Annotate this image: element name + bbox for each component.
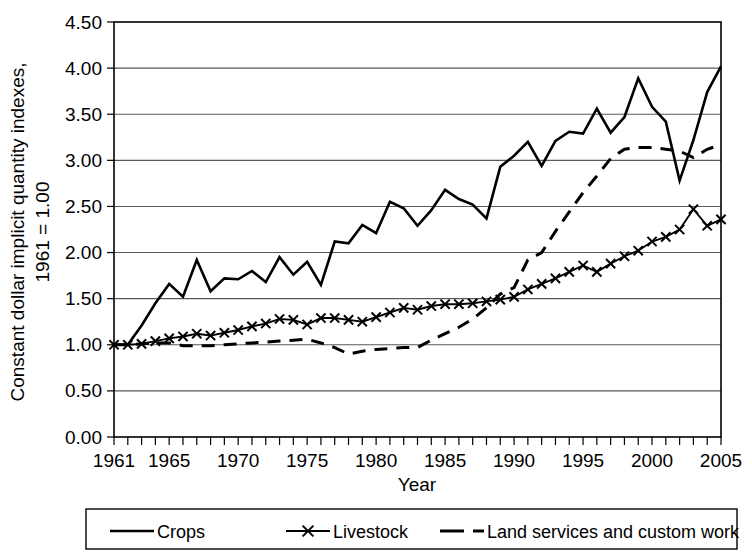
x-tick-label: 1970 — [217, 450, 259, 471]
plot-area-border — [114, 22, 721, 437]
data-point-marker — [551, 274, 560, 283]
y-axis-title-line2: 1961 = 1.00 — [32, 182, 53, 283]
y-tick-label: 2.50 — [65, 196, 102, 217]
x-tick-label: 1995 — [562, 450, 604, 471]
y-tick-label: 3.00 — [65, 150, 102, 171]
legend-label: Crops — [157, 522, 205, 542]
data-point-marker — [385, 308, 394, 317]
x-tick-label: 1980 — [355, 450, 397, 471]
data-point-marker — [537, 279, 546, 288]
x-tick-label: 1990 — [493, 450, 535, 471]
y-tick-label: 1.00 — [65, 334, 102, 355]
y-tick-label: 4.00 — [65, 58, 102, 79]
data-point-marker — [592, 267, 601, 276]
chart-legend: CropsLivestockLand services and custom w… — [86, 509, 740, 549]
series-layer — [109, 66, 725, 354]
x-axis: 1961196519701975198019851990199520002005 — [93, 437, 742, 471]
y-axis: 0.000.501.001.502.002.503.003.504.004.50 — [65, 12, 721, 448]
y-tick-label: 2.00 — [65, 242, 102, 263]
series-land-services-and-custom-work — [114, 145, 721, 354]
line-chart: Constant dollar implicit quantity indexe… — [0, 0, 752, 552]
series-crops — [114, 66, 721, 345]
legend-label: Land services and custom work — [487, 522, 740, 542]
x-tick-label: 2000 — [631, 450, 673, 471]
data-point-marker — [372, 313, 381, 322]
data-point-marker — [523, 285, 532, 294]
legend-label: Livestock — [333, 522, 409, 542]
x-tick-label: 1965 — [148, 450, 190, 471]
data-point-marker — [606, 259, 615, 268]
x-tick-label: 2005 — [700, 450, 742, 471]
data-point-marker — [647, 237, 656, 246]
y-tick-label: 1.50 — [65, 288, 102, 309]
x-tick-label: 1961 — [93, 450, 135, 471]
y-tick-label: 3.50 — [65, 104, 102, 125]
y-tick-label: 4.50 — [65, 12, 102, 33]
y-tick-label: 0.00 — [65, 427, 102, 448]
data-point-marker — [303, 320, 312, 329]
series-path — [114, 66, 721, 345]
data-point-marker — [703, 221, 712, 230]
x-tick-label: 1975 — [286, 450, 328, 471]
series-path — [114, 145, 721, 354]
data-point-marker — [675, 225, 684, 234]
legend-item-livestock: Livestock — [286, 522, 409, 542]
chart-figure: Constant dollar implicit quantity indexe… — [0, 0, 752, 552]
data-point-marker — [565, 267, 574, 276]
legend-item-land-services-and-custom-work: Land services and custom work — [440, 522, 740, 542]
x-tick-label: 1985 — [424, 450, 466, 471]
y-tick-label: 0.50 — [65, 380, 102, 401]
y-axis-title-line1: Constant dollar implicit quantity indexe… — [7, 62, 28, 401]
y-axis-title: Constant dollar implicit quantity indexe… — [7, 62, 53, 401]
data-point-marker — [578, 261, 587, 270]
x-axis-title: Year — [398, 474, 437, 495]
legend-item-crops: Crops — [110, 522, 205, 542]
data-point-marker — [661, 232, 670, 241]
data-point-marker — [634, 246, 643, 255]
